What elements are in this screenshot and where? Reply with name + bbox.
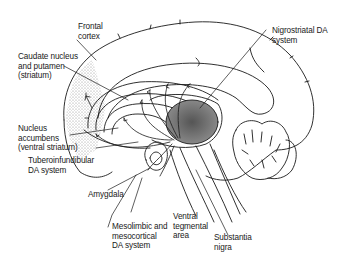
label-substantia-nigra: Substantia nigra [214, 233, 252, 252]
label-tuberoinfundibular: Tuberoinfundibular DA system [28, 156, 94, 175]
label-caudate-putamen: Caudate nucleus and putamen (striatum) [18, 52, 78, 81]
label-nucleus-accumbens: Nucleus accumbens (ventral striatum) [18, 124, 78, 153]
label-frontal-cortex: Frontal cortex [78, 22, 103, 41]
label-nigrostriatal: Nigrostriatal DA system [272, 26, 328, 45]
dopamine-pathway-diagram: Frontal cortex Caudate nucleus and putam… [0, 0, 347, 262]
label-mesolimbic-mesocortical: Mesolimbic and mesocortical DA system [112, 222, 167, 251]
label-ventral-tegmental-area: Ventral tegmental area [173, 212, 208, 241]
thalamus [166, 100, 218, 144]
amygdala-structure [145, 142, 168, 170]
label-amygdala: Amygdala [88, 190, 124, 200]
